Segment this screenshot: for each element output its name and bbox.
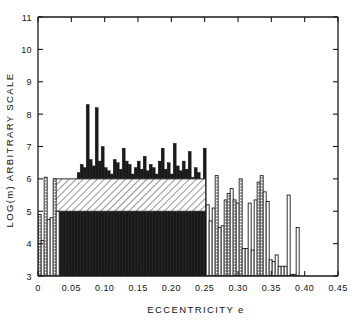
histogram-bar bbox=[254, 200, 257, 276]
x-tick-label: 0.40 bbox=[295, 283, 314, 293]
x-tick-label: 0.10 bbox=[95, 283, 114, 293]
y-tick-label: 11 bbox=[22, 13, 32, 23]
histogram-bar bbox=[296, 227, 299, 276]
y-tick-label: 6 bbox=[27, 174, 32, 184]
x-tick-label: 0.20 bbox=[162, 283, 181, 293]
histogram-bar bbox=[89, 159, 92, 276]
histogram-bar bbox=[257, 182, 260, 276]
x-tick-label: 0 bbox=[35, 283, 40, 293]
histogram-bar bbox=[125, 161, 128, 276]
x-axis-label: ECCENTRICITY e bbox=[147, 304, 245, 315]
y-tick-label: 8 bbox=[27, 110, 32, 120]
histogram-bar bbox=[284, 266, 287, 276]
histogram-bar bbox=[158, 161, 161, 276]
histogram-bar bbox=[161, 148, 164, 276]
eccentricity-histogram: 00.050.100.150.200.250.300.350.400.45 34… bbox=[0, 0, 360, 321]
hatch-region bbox=[54, 179, 206, 211]
histogram-bar bbox=[143, 156, 146, 276]
y-axis-tick-labels: 34567891011 bbox=[21, 13, 32, 282]
x-axis-tick-labels: 00.050.100.150.200.250.300.350.400.45 bbox=[35, 283, 347, 293]
histogram-bar bbox=[44, 177, 47, 276]
x-tick-label: 0.15 bbox=[128, 283, 147, 293]
histogram-bar bbox=[98, 161, 101, 276]
y-tick-label: 10 bbox=[21, 45, 32, 55]
histogram-bar bbox=[50, 218, 53, 276]
x-tick-label: 0.35 bbox=[262, 283, 281, 293]
histogram-bar bbox=[113, 159, 116, 276]
hatched-band bbox=[54, 179, 206, 211]
histogram-bar bbox=[182, 161, 185, 276]
histogram-bar bbox=[122, 148, 125, 276]
y-axis-label: LOG(m) ARBITRARY SCALE bbox=[4, 72, 15, 227]
histogram-bar bbox=[281, 266, 284, 276]
histogram-bar bbox=[287, 195, 290, 276]
x-tick-label: 0.25 bbox=[195, 283, 214, 293]
x-tick-label: 0.30 bbox=[228, 283, 247, 293]
histogram-bar bbox=[41, 240, 44, 276]
histogram-bar bbox=[47, 219, 50, 276]
chart-figure: 00.050.100.150.200.250.300.350.400.45 34… bbox=[0, 0, 360, 321]
y-tick-label: 7 bbox=[27, 142, 32, 152]
histogram-bar bbox=[137, 161, 140, 276]
histogram-bar bbox=[260, 176, 263, 276]
histogram-bar bbox=[278, 266, 281, 276]
histogram-bar bbox=[263, 192, 266, 276]
histogram-bar bbox=[53, 179, 56, 276]
histogram-bar bbox=[272, 261, 275, 276]
y-tick-label: 5 bbox=[27, 207, 32, 217]
y-tick-label: 9 bbox=[27, 77, 32, 87]
histogram-bar bbox=[266, 202, 269, 276]
y-tick-label: 3 bbox=[27, 272, 32, 282]
histogram-bar bbox=[275, 255, 278, 276]
histogram-bar bbox=[56, 211, 59, 276]
x-tick-label: 0.05 bbox=[62, 283, 81, 293]
x-tick-label: 0.45 bbox=[328, 283, 347, 293]
y-tick-label: 4 bbox=[27, 239, 32, 249]
histogram-bar bbox=[188, 151, 191, 276]
